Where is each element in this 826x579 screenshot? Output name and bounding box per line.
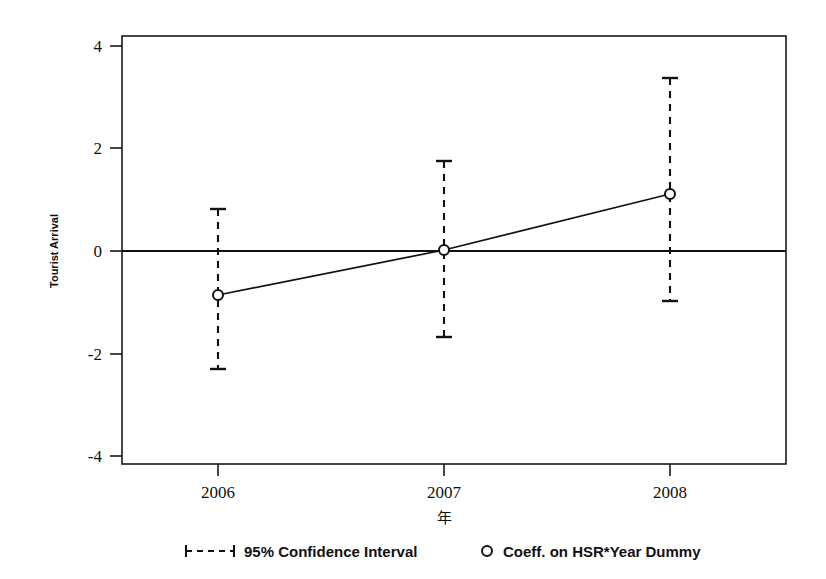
y-tick-label-0: 0 [94, 242, 103, 261]
y-tick-label-2: 2 [94, 139, 103, 158]
x-tick-label-2007: 2007 [427, 483, 462, 502]
chart-svg: 4 2 0 -2 -4 Tourist Arrival 2006 2007 20… [0, 0, 826, 579]
data-point-2008 [665, 189, 675, 199]
legend-label-ci: 95% Confidence Interval [244, 543, 417, 560]
y-tick-label-neg2: -2 [88, 345, 102, 364]
legend-open-circle-icon [482, 546, 492, 556]
x-tick-label-2006: 2006 [201, 483, 235, 502]
x-tick-label-2008: 2008 [653, 483, 687, 502]
legend-label-coefficient: Coeff. on HSR*Year Dummy [503, 543, 701, 560]
data-point-2006 [213, 290, 223, 300]
y-axis-title: Tourist Arrival [48, 214, 60, 288]
y-tick-label-neg4: -4 [88, 447, 103, 466]
chart-background [0, 0, 826, 579]
x-axis-title: 年 [437, 509, 452, 526]
legend-item-coefficient: Coeff. on HSR*Year Dummy [482, 543, 701, 560]
chart-figure: 4 2 0 -2 -4 Tourist Arrival 2006 2007 20… [0, 0, 826, 579]
data-point-2007 [439, 245, 449, 255]
y-tick-label-4: 4 [94, 37, 103, 56]
